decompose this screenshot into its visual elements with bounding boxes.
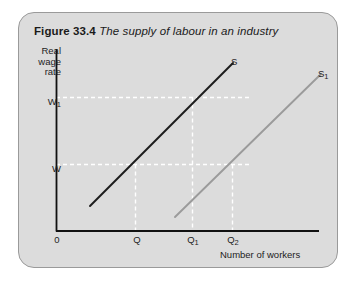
x-tick-label-q2: Q2 bbox=[224, 235, 242, 247]
y-tick-w1-main: W bbox=[48, 96, 57, 107]
figure-card: Figure 33.4 The supply of labour in an i… bbox=[18, 12, 338, 268]
x-axis-label: Number of workers bbox=[220, 250, 300, 261]
supply-curve-s bbox=[90, 63, 233, 206]
supply-of-labour-chart bbox=[19, 13, 338, 268]
supply-curve-s1 bbox=[175, 74, 321, 217]
curve-label-s: S bbox=[231, 57, 237, 68]
x-tick-label-q1: Q1 bbox=[184, 235, 202, 247]
x-tick-q1-main: Q bbox=[187, 234, 194, 245]
y-tick-label-w1: W1 bbox=[33, 97, 61, 109]
x-tick-label-origin: 0 bbox=[49, 235, 65, 246]
y-axis-label-line2: wage bbox=[38, 56, 61, 67]
y-tick-label-w: W bbox=[33, 164, 61, 175]
y-tick-w1-subscript: 1 bbox=[57, 100, 61, 109]
curve-label-s1: S1 bbox=[318, 69, 329, 81]
y-axis-label-line1: Real bbox=[41, 45, 61, 56]
y-axis-label: Real wage rate bbox=[21, 46, 61, 78]
x-tick-q2-subscript: 2 bbox=[235, 238, 239, 247]
x-tick-q2-main: Q bbox=[227, 234, 234, 245]
y-axis-label-line3: rate bbox=[45, 66, 61, 77]
curve-label-s1-subscript: 1 bbox=[324, 72, 328, 81]
x-tick-label-q: Q bbox=[129, 235, 145, 246]
x-tick-q1-subscript: 1 bbox=[195, 238, 199, 247]
y-tick-w-main: W bbox=[52, 163, 61, 174]
